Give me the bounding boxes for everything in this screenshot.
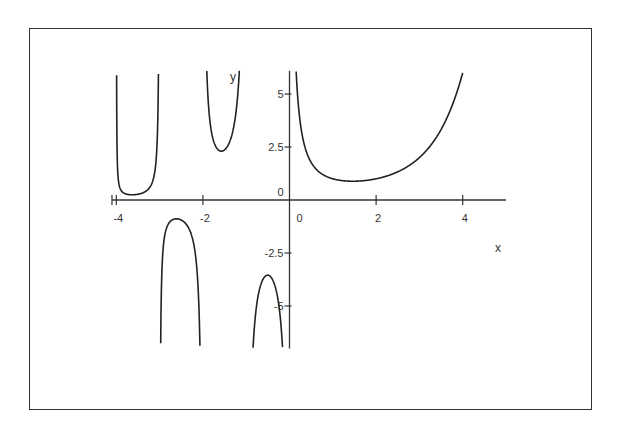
gamma-curve-branch-1 (117, 74, 159, 195)
x-tick-label: 4 (462, 212, 468, 224)
gamma-curve-branch-2 (161, 219, 200, 346)
y-tick-label: 0 (277, 186, 283, 198)
x-tick-label: 2 (375, 212, 381, 224)
x-tick-label: -4 (113, 212, 123, 224)
x-axis-label: x (495, 241, 501, 255)
gamma-function-plot: -4-202452.50-2.5-5 x y (0, 0, 623, 432)
x-tick-label: -2 (200, 212, 210, 224)
gamma-curve-branch-5 (296, 72, 463, 182)
y-axis-label: y (230, 70, 236, 84)
y-tick-label: -2.5 (265, 247, 284, 259)
axes: -4-202452.50-2.5-5 (112, 71, 506, 349)
x-tick-label: 0 (296, 212, 302, 224)
y-tick-label: 5 (277, 88, 283, 100)
y-tick-label: 2.5 (268, 141, 283, 153)
